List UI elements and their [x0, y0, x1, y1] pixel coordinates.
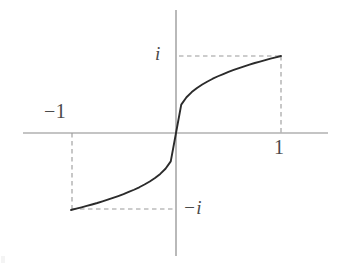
plot-canvas	[0, 0, 344, 266]
label-negative-one: −1	[44, 101, 66, 121]
label-positive-imaginary: i	[155, 44, 160, 63]
label-negative-imaginary: −i	[183, 198, 202, 217]
scan-artifact	[1, 256, 5, 263]
complex-function-plot-figure: i 1 −1 −i	[0, 0, 344, 266]
label-positive-one: 1	[274, 137, 284, 157]
